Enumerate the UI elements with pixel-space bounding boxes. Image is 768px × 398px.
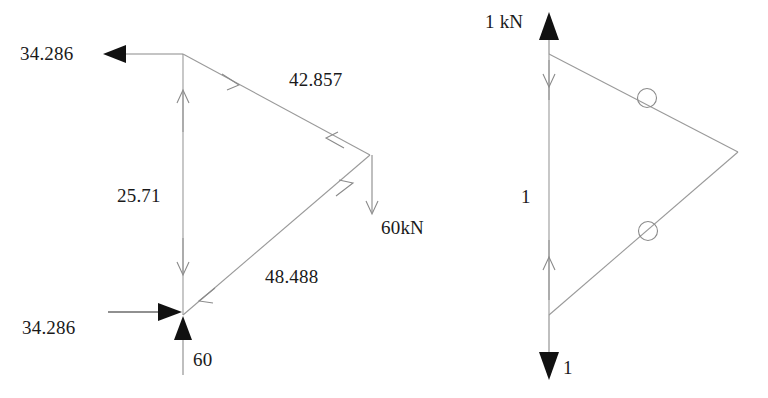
top-horizontal-reaction-label: 34.286 xyxy=(20,44,73,64)
bottom-horizontal-reaction-label: 34.286 xyxy=(22,318,75,338)
figure-root: 34.286 42.857 25.71 48.488 60kN 34.286 6… xyxy=(0,0,768,398)
zero-force-marker-bottom-icon xyxy=(639,222,658,241)
right-truss-geometry xyxy=(549,54,738,315)
bottom-vertical-reaction-arrow xyxy=(174,316,192,375)
applied-load-arrow xyxy=(366,155,378,214)
top-unit-force-arrow xyxy=(539,12,559,54)
vertical-member-force-label: 25.71 xyxy=(117,186,161,206)
bottom-vertical-reaction-label: 60 xyxy=(193,350,212,370)
top-chord-force-label: 42.857 xyxy=(289,70,342,90)
top-horizontal-reaction-arrow xyxy=(103,45,183,63)
bottom-unit-force-label: 1 xyxy=(563,358,573,378)
bottom-horizontal-reaction-arrow xyxy=(108,303,182,321)
top-unit-force-label: 1 kN xyxy=(485,12,523,32)
right-vertical-member-label: 1 xyxy=(521,187,531,207)
diagram-canvas xyxy=(0,0,768,398)
bottom-unit-force-arrow xyxy=(539,315,559,380)
applied-load-label: 60kN xyxy=(381,218,424,238)
bottom-chord-force-label: 48.488 xyxy=(265,267,318,287)
